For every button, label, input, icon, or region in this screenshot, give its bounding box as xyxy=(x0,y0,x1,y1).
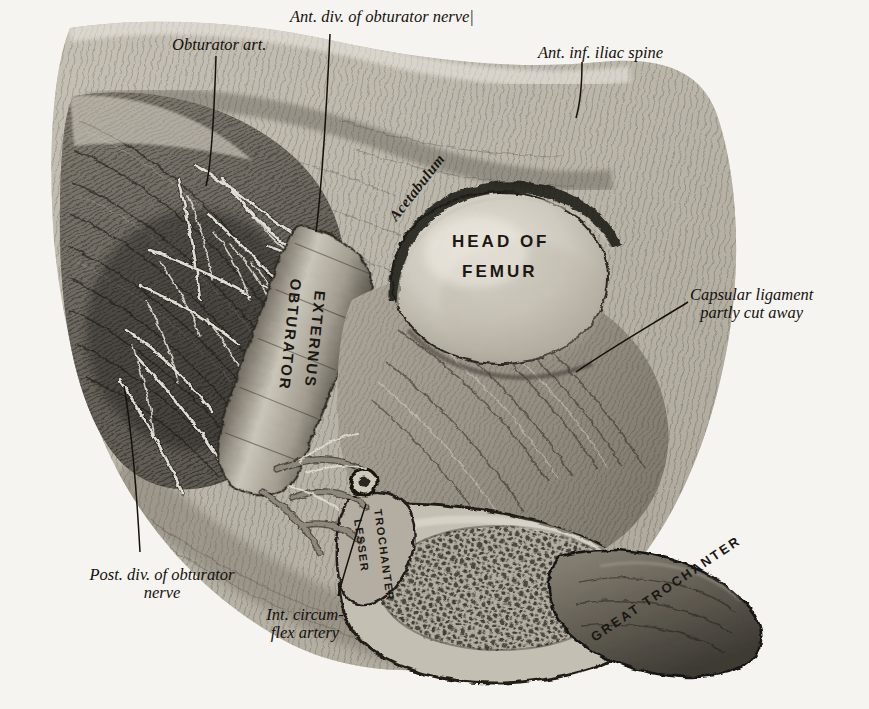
callout-post-div-obturator-nerve-line2: nerve xyxy=(42,584,282,602)
callout-int-circumflex-artery: Int. circum- flex artery xyxy=(240,606,370,643)
callout-ant-inf-iliac-spine: Ant. inf. iliac spine xyxy=(538,44,663,62)
callout-int-circumflex-artery-line1: Int. circum- xyxy=(240,606,370,624)
callout-capsular-ligament-line2: partly cut away xyxy=(690,304,813,322)
plate-label-head-of-femur-line2: FEMUR xyxy=(462,262,537,282)
callout-post-div-obturator-nerve-line1: Post. div. of obturator xyxy=(42,566,282,584)
callout-capsular-ligament-line1: Capsular ligament xyxy=(690,286,813,304)
callout-int-circumflex-artery-line2: flex artery xyxy=(240,624,370,642)
anatomy-plate-page: the popliteal spacerior tibial arteryTib… xyxy=(0,0,869,709)
callout-ant-div-obturator-nerve: Ant. div. of obturator nerve| xyxy=(290,8,474,26)
callout-obturator-art: Obturator art. xyxy=(172,36,266,54)
callout-post-div-obturator-nerve: Post. div. of obturator nerve xyxy=(42,566,282,603)
callout-capsular-ligament: Capsular ligament partly cut away xyxy=(690,286,813,323)
plate-label-head-of-femur-line1: HEAD OF xyxy=(452,232,550,252)
